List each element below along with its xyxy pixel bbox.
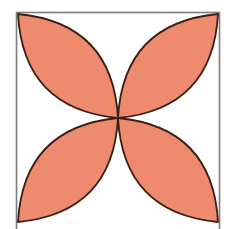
figure-svg: Four-petal quatrefoil inscribed in a squ… xyxy=(0,0,238,229)
geometry-figure: Four-petal quatrefoil inscribed in a squ… xyxy=(0,0,238,229)
